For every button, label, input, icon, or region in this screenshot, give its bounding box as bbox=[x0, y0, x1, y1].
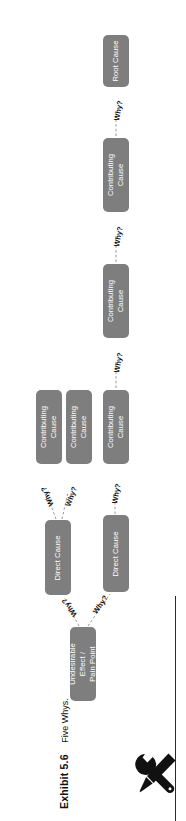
node-contributing-cause-3[interactable]: Contributing Cause bbox=[103, 390, 129, 464]
node-contributing-cause-4[interactable]: Contributing Cause bbox=[103, 264, 129, 338]
node-root-cause[interactable]: Root Cause bbox=[103, 35, 129, 87]
node-label: Contributing Cause bbox=[69, 406, 89, 448]
node-label: Contributing Cause bbox=[39, 406, 59, 448]
node-contributing-cause-5[interactable]: Contributing Cause bbox=[103, 138, 129, 212]
node-direct-cause-2[interactable]: Direct Cause bbox=[103, 515, 129, 592]
node-direct-cause-1[interactable]: Direct Cause bbox=[45, 520, 71, 595]
node-label: Direct Cause bbox=[53, 535, 63, 580]
node-contributing-cause-2[interactable]: Contributing Cause bbox=[66, 390, 92, 464]
node-label: Contributing Cause bbox=[106, 406, 126, 448]
exhibit-number: Exhibit 5.6 bbox=[58, 754, 70, 809]
node-label: Undesirable Effect / Pain Point bbox=[68, 643, 98, 685]
node-undesirable-effect[interactable]: Undesirable Effect / Pain Point bbox=[70, 627, 96, 701]
node-label: Root Cause bbox=[111, 40, 121, 81]
node-label: Direct Cause bbox=[111, 531, 121, 576]
caption-title: Five Whys. bbox=[60, 698, 70, 743]
tools-wrench-screwdriver-icon bbox=[133, 750, 179, 798]
node-contributing-cause-1[interactable]: Contributing Cause bbox=[36, 390, 62, 464]
node-label: Contributing Cause bbox=[106, 280, 126, 322]
node-label: Contributing Cause bbox=[106, 154, 126, 196]
caption: Exhibit 5.6 Five Whys. bbox=[54, 609, 72, 809]
figure-canvas: Undesirable Effect / Pain Point Direct C… bbox=[0, 0, 186, 821]
